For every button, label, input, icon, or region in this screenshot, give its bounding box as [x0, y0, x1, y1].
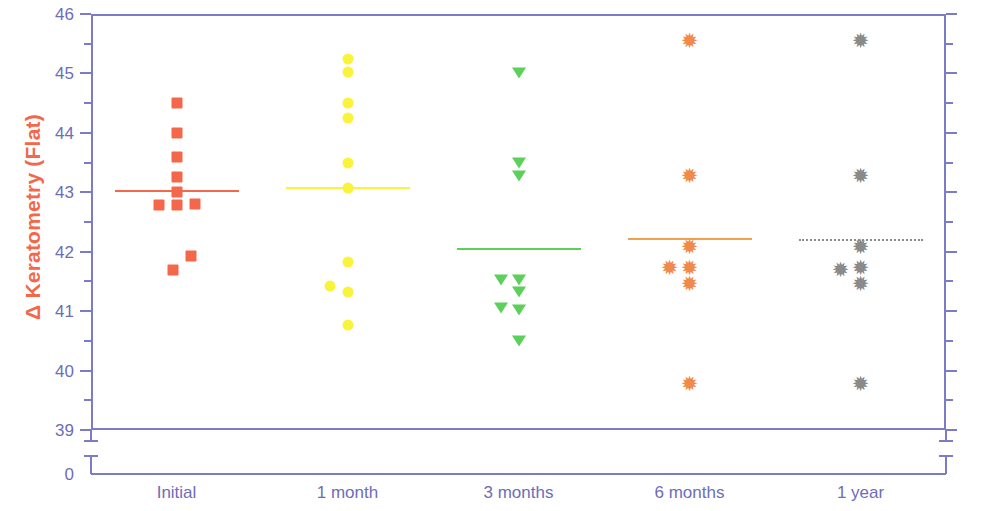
- data-point: ✹: [681, 36, 699, 46]
- y-tick-major-right: [946, 13, 957, 15]
- data-point: ✹: [681, 279, 699, 289]
- data-point: [153, 200, 164, 211]
- data-point: [171, 151, 182, 162]
- data-point: [342, 113, 353, 124]
- y-tick-label: 42: [34, 244, 74, 261]
- y-tick-major-right: [946, 370, 957, 372]
- data-point: ✹: [681, 242, 699, 252]
- y-tick-label: 43: [34, 184, 74, 201]
- y-tick-minor: [84, 162, 91, 164]
- y-tick-major: [80, 310, 91, 312]
- y-axis-zero-label: 0: [34, 466, 74, 483]
- y-tick-major: [80, 13, 91, 15]
- data-point: ✹: [852, 379, 870, 389]
- data-point: ✹: [681, 171, 699, 181]
- x-tick-label-3-months: 3 months: [434, 484, 604, 501]
- y-tick-minor: [84, 340, 91, 342]
- data-point: [342, 157, 353, 168]
- data-point: [512, 275, 526, 286]
- y-tick-minor-right: [946, 399, 953, 401]
- data-point: [189, 199, 200, 210]
- scatter-chart: Δ Keratometry (Flat) 46454443424140390 I…: [0, 0, 982, 511]
- y-tick-minor: [84, 221, 91, 223]
- data-point: [512, 304, 526, 315]
- y-tick-minor-right: [946, 43, 953, 45]
- mean-line-3-months: [457, 248, 581, 250]
- data-point: [185, 251, 196, 262]
- data-point: [342, 286, 353, 297]
- y-tick-major-right: [946, 310, 957, 312]
- data-point: [512, 157, 526, 168]
- data-point: [342, 257, 353, 268]
- y-tick-major: [80, 191, 91, 193]
- data-point: ✹: [852, 36, 870, 46]
- data-point: [512, 170, 526, 181]
- y-tick-major: [80, 370, 91, 372]
- data-point: [171, 172, 182, 183]
- y-tick-major: [80, 72, 91, 74]
- y-tick-major: [80, 251, 91, 253]
- data-point: [512, 286, 526, 297]
- axis-break-stub-right-bottom: [945, 455, 947, 474]
- data-point: [171, 200, 182, 211]
- data-point: ✹: [832, 265, 850, 275]
- y-tick-minor-right: [946, 162, 953, 164]
- y-tick-minor: [84, 102, 91, 104]
- axis-break-stub-left-bottom: [90, 455, 92, 474]
- y-tick-label: 40: [34, 363, 74, 380]
- data-point: [342, 319, 353, 330]
- y-tick-major: [80, 429, 91, 431]
- data-point: [324, 281, 335, 292]
- y-tick-major-right: [946, 191, 957, 193]
- y-tick-minor: [84, 43, 91, 45]
- y-tick-major-right: [946, 132, 957, 134]
- axis-break-cap-right: [939, 440, 953, 442]
- data-point: [171, 127, 182, 138]
- y-tick-minor-right: [946, 102, 953, 104]
- y-tick-minor: [84, 280, 91, 282]
- y-tick-minor-right: [946, 221, 953, 223]
- y-tick-major: [80, 132, 91, 134]
- y-tick-major-right: [946, 429, 957, 431]
- x-tick-label-1-year: 1 year: [776, 484, 946, 501]
- x-axis-line: [91, 473, 946, 475]
- data-point: ✹: [852, 242, 870, 252]
- data-point: [494, 303, 508, 314]
- axis-break-stub-left-top: [90, 430, 92, 440]
- data-point: [342, 67, 353, 78]
- data-point: ✹: [852, 279, 870, 289]
- x-tick-label-6-months: 6 months: [605, 484, 775, 501]
- axis-break-cap-left-lower: [84, 455, 98, 457]
- y-tick-label: 41: [34, 303, 74, 320]
- data-point: [342, 98, 353, 109]
- y-tick-minor-right: [946, 280, 953, 282]
- data-point: [167, 264, 178, 275]
- y-tick-major-right: [946, 72, 957, 74]
- data-point: ✹: [661, 263, 679, 273]
- axis-break-stub-right-top: [945, 430, 947, 440]
- data-point: [512, 335, 526, 346]
- y-tick-label: 44: [34, 125, 74, 142]
- axis-break-cap-right-lower: [939, 455, 953, 457]
- data-point: [342, 53, 353, 64]
- data-point: [342, 183, 353, 194]
- data-point: [494, 275, 508, 286]
- data-point: ✹: [852, 171, 870, 181]
- y-tick-minor-right: [946, 340, 953, 342]
- y-tick-major-right: [946, 251, 957, 253]
- y-tick-minor: [84, 399, 91, 401]
- data-point: ✹: [681, 379, 699, 389]
- x-tick-label-initial: Initial: [92, 484, 262, 501]
- y-tick-label: 39: [34, 422, 74, 439]
- y-tick-label: 45: [34, 65, 74, 82]
- data-point: [512, 68, 526, 79]
- y-tick-label: 46: [34, 6, 74, 23]
- data-point: [171, 187, 182, 198]
- data-point: [171, 98, 182, 109]
- axis-break-cap-left: [84, 440, 98, 442]
- x-tick-label-1-month: 1 month: [263, 484, 433, 501]
